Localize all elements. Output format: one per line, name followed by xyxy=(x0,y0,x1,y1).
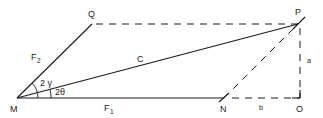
label-C: C xyxy=(137,54,144,64)
label-F2-subscript: 2 xyxy=(37,57,41,64)
label-b: b xyxy=(259,104,263,111)
angle-arc-2gamma xyxy=(32,83,38,98)
tick-at-P xyxy=(293,17,305,29)
label-N: N xyxy=(220,104,227,114)
force-parallelogram-diagram: Q P M N O F 2 C F 1 b a 2 γ 2θ xyxy=(0,0,323,118)
label-angle-2theta: 2θ xyxy=(55,87,65,97)
line-NP-dashed xyxy=(224,24,298,98)
label-angle-2gamma: 2 γ xyxy=(40,78,53,88)
label-O: O xyxy=(296,104,303,114)
label-F1-subscript: 1 xyxy=(110,108,114,115)
label-Q: Q xyxy=(88,9,95,19)
label-P: P xyxy=(295,7,301,17)
label-M: M xyxy=(10,104,18,114)
label-a: a xyxy=(307,57,311,64)
angle-arc-2theta xyxy=(50,89,51,98)
